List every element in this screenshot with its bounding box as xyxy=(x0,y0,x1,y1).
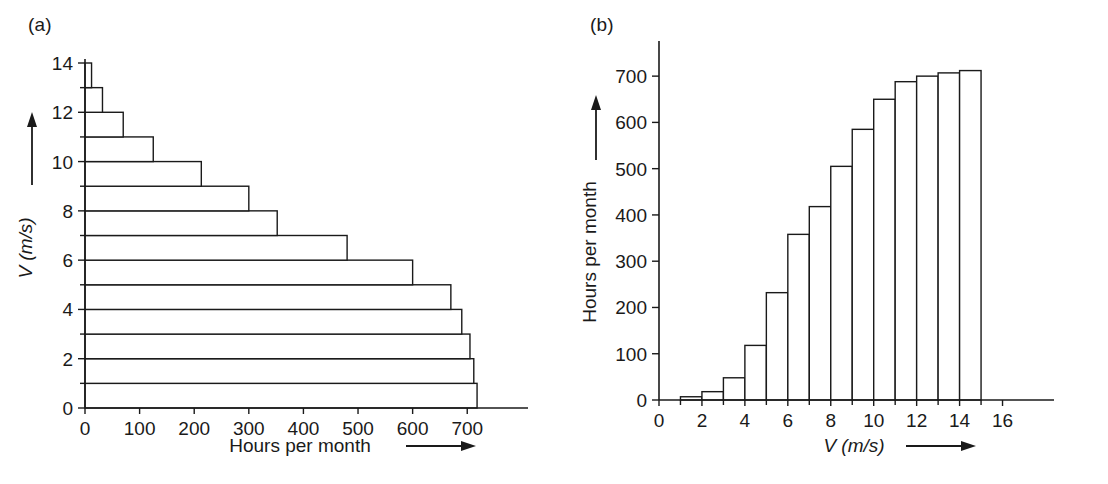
bar-b-4 xyxy=(766,293,787,400)
y-ticklabel-b-1: 100 xyxy=(615,344,647,365)
x-ticklabel-a-1: 100 xyxy=(124,418,156,439)
bar-a-11 xyxy=(85,112,123,137)
y-ticklabel-a-2: 4 xyxy=(62,299,73,320)
y-ticklabel-b-2: 200 xyxy=(615,297,647,318)
bar-b-10 xyxy=(895,82,916,400)
bar-a-0 xyxy=(85,383,477,408)
x-ticklabel-b-7: 14 xyxy=(949,410,971,431)
bar-b-5 xyxy=(788,234,809,400)
y-ticklabel-b-7: 700 xyxy=(615,66,647,87)
bar-b-3 xyxy=(745,345,766,400)
bar-b-11 xyxy=(917,76,938,400)
y-axis-title-b: Hours per month xyxy=(579,181,600,323)
bar-b-8 xyxy=(852,129,873,400)
panel-b: (b) 01002003004005006007000246810121416H… xyxy=(554,0,1108,484)
y-ticklabel-b-3: 300 xyxy=(615,251,647,272)
y-axis-arrowhead-b xyxy=(591,95,601,110)
x-ticklabel-b-6: 12 xyxy=(906,410,927,431)
x-ticklabel-b-5: 10 xyxy=(863,410,884,431)
y-ticklabel-a-1: 2 xyxy=(62,349,73,370)
bar-b-9 xyxy=(874,99,895,400)
x-axis-title-a: Hours per month xyxy=(229,435,371,456)
bar-a-7 xyxy=(85,211,277,236)
bar-a-10 xyxy=(85,137,153,162)
y-ticklabel-b-4: 400 xyxy=(615,205,647,226)
x-ticklabel-b-0: 0 xyxy=(654,410,665,431)
bar-b-13 xyxy=(960,71,981,400)
panel-a-plot: 010020030040050060070002468101214V (m/s)… xyxy=(0,0,554,484)
y-ticklabel-a-7: 14 xyxy=(52,53,74,74)
x-axis-arrowhead-a xyxy=(461,441,476,451)
x-ticklabel-b-2: 4 xyxy=(740,410,751,431)
y-axis-title-a: V (m/s) xyxy=(15,217,36,278)
x-ticklabel-a-2: 200 xyxy=(178,418,210,439)
bar-b-12 xyxy=(938,73,959,400)
bar-b-7 xyxy=(831,166,852,400)
bar-a-1 xyxy=(85,359,474,384)
wind-speed-figure: (a) 010020030040050060070002468101214V (… xyxy=(0,0,1108,484)
y-ticklabel-a-5: 10 xyxy=(52,152,73,173)
panel-a: (a) 010020030040050060070002468101214V (… xyxy=(0,0,554,484)
y-ticklabel-a-6: 12 xyxy=(52,102,73,123)
bar-a-9 xyxy=(85,162,201,187)
y-ticklabel-b-0: 0 xyxy=(636,390,647,411)
y-ticklabel-a-4: 8 xyxy=(62,201,73,222)
x-axis-arrowhead-b xyxy=(961,441,976,451)
bar-a-6 xyxy=(85,236,347,261)
y-ticklabel-b-6: 600 xyxy=(615,112,647,133)
x-ticklabel-b-4: 8 xyxy=(825,410,836,431)
bar-b-6 xyxy=(809,207,830,400)
y-ticklabel-b-5: 500 xyxy=(615,159,647,180)
y-ticklabel-a-0: 0 xyxy=(62,398,73,419)
bar-a-2 xyxy=(85,334,470,359)
bar-a-12 xyxy=(85,88,102,113)
x-axis-title-b: V (m/s) xyxy=(823,435,884,456)
bar-a-5 xyxy=(85,260,413,285)
panel-b-plot: 01002003004005006007000246810121416Hours… xyxy=(554,0,1108,484)
x-ticklabel-b-8: 16 xyxy=(992,410,1013,431)
bar-a-8 xyxy=(85,186,249,211)
bar-a-3 xyxy=(85,309,462,334)
x-ticklabel-b-3: 6 xyxy=(783,410,794,431)
x-ticklabel-a-0: 0 xyxy=(80,418,91,439)
bar-b-1 xyxy=(702,392,723,400)
y-ticklabel-a-3: 6 xyxy=(62,250,73,271)
bar-a-4 xyxy=(85,285,451,310)
x-ticklabel-a-7: 700 xyxy=(451,418,483,439)
x-ticklabel-b-1: 2 xyxy=(697,410,708,431)
bar-a-13 xyxy=(85,63,92,88)
y-axis-arrowhead-a xyxy=(27,112,37,127)
x-ticklabel-a-6: 600 xyxy=(397,418,429,439)
bar-b-2 xyxy=(723,378,744,400)
